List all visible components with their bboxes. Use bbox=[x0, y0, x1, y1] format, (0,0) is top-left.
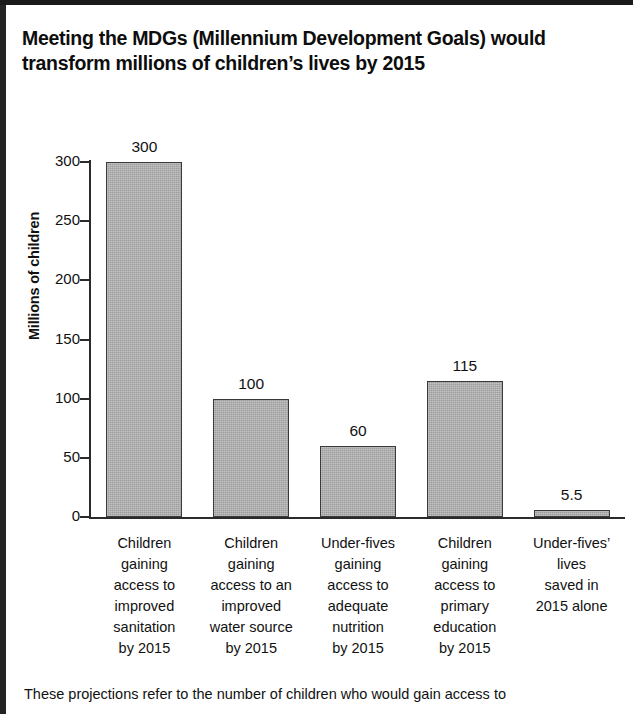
y-tick-label: 200 bbox=[36, 270, 80, 287]
category-label-line: saved in bbox=[518, 575, 625, 596]
category-label: Childrengainingaccess to animprovedwater… bbox=[198, 533, 305, 659]
category-label-line: by 2015 bbox=[198, 638, 305, 659]
category-label-line: improved bbox=[198, 596, 305, 617]
y-tick-mark bbox=[80, 398, 90, 400]
bar-value-label: 115 bbox=[420, 357, 510, 375]
y-tick-label: 300 bbox=[36, 152, 80, 169]
category-label: Under-fivesgainingaccess toadequatenutri… bbox=[305, 533, 412, 659]
bar bbox=[106, 162, 182, 517]
category-label-line: by 2015 bbox=[305, 638, 412, 659]
y-tick-label: 250 bbox=[36, 211, 80, 228]
bar bbox=[320, 446, 396, 517]
category-label: Childrengainingaccess toimprovedsanitati… bbox=[91, 533, 198, 659]
category-label-line: gaining bbox=[91, 554, 198, 575]
category-label-line: education bbox=[411, 617, 518, 638]
bar bbox=[427, 381, 503, 517]
category-label-line: gaining bbox=[305, 554, 412, 575]
category-label-line: nutrition bbox=[305, 617, 412, 638]
category-label-line: Under-fives’ bbox=[518, 533, 625, 554]
y-tick-mark bbox=[80, 279, 90, 281]
category-label-line: gaining bbox=[198, 554, 305, 575]
bar-value-label: 300 bbox=[99, 138, 189, 156]
bar bbox=[213, 399, 289, 517]
bar-value-label: 5.5 bbox=[527, 486, 617, 504]
category-label-line: Children bbox=[91, 533, 198, 554]
bar-value-label: 60 bbox=[313, 422, 403, 440]
y-tick-mark bbox=[80, 220, 90, 222]
category-label-line: lives bbox=[518, 554, 625, 575]
category-label-line: water source bbox=[198, 617, 305, 638]
category-label-line: primary bbox=[411, 596, 518, 617]
category-label-line: 2015 alone bbox=[518, 596, 625, 617]
y-tick-mark bbox=[80, 457, 90, 459]
category-label: Childrengainingaccess toprimaryeducation… bbox=[411, 533, 518, 659]
category-label-line: by 2015 bbox=[91, 638, 198, 659]
category-label-line: access to bbox=[305, 575, 412, 596]
y-tick-mark bbox=[80, 339, 90, 341]
y-tick-mark bbox=[80, 516, 90, 518]
category-label-line: Children bbox=[411, 533, 518, 554]
y-tick-label: 0 bbox=[36, 507, 80, 524]
y-tick-label: 150 bbox=[36, 330, 80, 347]
category-label-line: access to bbox=[411, 575, 518, 596]
bar bbox=[534, 510, 610, 517]
category-label-line: Children bbox=[198, 533, 305, 554]
y-tick-label: 100 bbox=[36, 389, 80, 406]
category-label-line: access to an bbox=[198, 575, 305, 596]
category-label-line: access to bbox=[91, 575, 198, 596]
category-label-line: Under-fives bbox=[305, 533, 412, 554]
category-label-line: sanitation bbox=[91, 617, 198, 638]
category-label-line: improved bbox=[91, 596, 198, 617]
bar-chart: Millions of children 050100150200250300 … bbox=[0, 0, 633, 714]
bar-value-label: 100 bbox=[206, 375, 296, 393]
y-tick-label: 50 bbox=[36, 448, 80, 465]
y-tick-mark bbox=[80, 161, 90, 163]
y-axis-ticks: 050100150200250300 bbox=[0, 0, 80, 714]
category-label-line: gaining bbox=[411, 554, 518, 575]
category-label: Under-fives’livessaved in2015 alone bbox=[518, 533, 625, 617]
scanned-page: Meeting the MDGs (Millennium Development… bbox=[0, 0, 633, 714]
x-axis-baseline bbox=[89, 517, 625, 519]
chart-footnote: These projections refer to the number of… bbox=[24, 683, 614, 706]
category-label-line: adequate bbox=[305, 596, 412, 617]
category-label-line: by 2015 bbox=[411, 638, 518, 659]
